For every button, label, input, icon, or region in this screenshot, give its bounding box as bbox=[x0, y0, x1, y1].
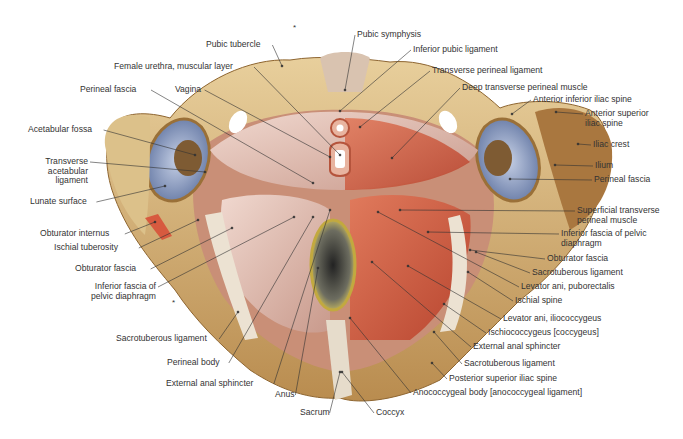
label-coccyx: Coccyx bbox=[376, 408, 404, 418]
label-perineal-body: Perineal body bbox=[167, 358, 220, 368]
label-obturator-fascia-left: Obturator fascia bbox=[75, 264, 136, 274]
leader-dot bbox=[154, 221, 156, 223]
label-female-urethra: Female urethra, muscular layer bbox=[114, 62, 233, 72]
label-inferior-pubic-ligament: Inferior pubic ligament bbox=[413, 45, 498, 55]
label-anterior-inferior-iliac-spine: Anterior inferior iliac spine bbox=[533, 95, 632, 105]
asterisk-marker: * bbox=[293, 23, 296, 32]
leader-dot bbox=[197, 219, 199, 221]
leader-dot bbox=[399, 209, 401, 211]
label-external-anal-sphincter-right: External anal sphincter bbox=[473, 342, 560, 352]
label-ischiococcygeus: Ischiococcygeus [coccygeus] bbox=[488, 328, 599, 338]
leader-dot bbox=[339, 110, 341, 112]
label-transverse-perineal-ligament: Transverse perineal ligament bbox=[432, 66, 543, 76]
label-sacrum: Sacrum bbox=[300, 408, 330, 418]
leader-dot bbox=[339, 154, 341, 156]
label-anus: Anus bbox=[275, 390, 295, 400]
leader-dot bbox=[293, 216, 295, 218]
label-ischial-spine: Ischial spine bbox=[515, 296, 562, 306]
leader-dot bbox=[475, 251, 477, 253]
label-obturator-fascia-right: Obturator fascia bbox=[547, 254, 608, 264]
leader-dot bbox=[312, 182, 314, 184]
label-vagina: Vagina bbox=[175, 85, 201, 95]
pelvic-floor-diagram: ** Pubic tubercleFemale urethra, muscula… bbox=[0, 0, 683, 439]
label-iliac-crest: Iliac crest bbox=[593, 140, 629, 150]
leader-dot bbox=[164, 185, 166, 187]
label-acetabular-fossa: Acetabular fossa bbox=[28, 125, 92, 135]
leader-dot bbox=[509, 178, 511, 180]
leader-dot bbox=[555, 111, 557, 113]
leader-dot bbox=[237, 311, 239, 313]
label-pubic-tubercle: Pubic tubercle bbox=[206, 40, 260, 50]
label-sacrotuberous-ligament-left: Sacrotuberous ligament bbox=[116, 334, 207, 344]
leader-dot bbox=[377, 211, 379, 213]
label-pubic-symphysis: Pubic symphysis bbox=[357, 30, 421, 40]
label-perineal-fascia-right: Perineal fascia bbox=[594, 175, 650, 185]
leader-dot bbox=[194, 154, 196, 156]
label-anterior-superior-iliac-spine: Anterior superioriliac spine bbox=[585, 109, 649, 128]
leader-dot bbox=[312, 216, 314, 218]
leader-dot bbox=[281, 65, 283, 67]
label-perineal-fascia-left: Perineal fascia bbox=[80, 85, 136, 95]
leader-dot bbox=[317, 267, 319, 269]
label-sacrotuberous-ligament-right-lower: Sacrotuberous ligament bbox=[464, 359, 555, 369]
leader-dot bbox=[231, 227, 233, 229]
leader-dot bbox=[371, 261, 373, 263]
leader-dot bbox=[407, 265, 409, 267]
label-sacrotuberous-ligament-right-upper: Sacrotuberous ligament bbox=[532, 268, 623, 278]
label-inferior-fascia-pelvic-diaphragm-right: Inferior fascia of pelvicdiaphragm bbox=[561, 229, 647, 248]
leader-dot bbox=[433, 331, 435, 333]
label-obturator-internus: Obturator internus bbox=[40, 229, 109, 239]
asterisk-marker: * bbox=[172, 298, 175, 307]
leader-dot bbox=[204, 171, 206, 173]
label-external-anal-sphincter-left: External anal sphincter bbox=[166, 379, 253, 389]
label-superficial-transverse-perineal-muscle: Superficial transverseperineal muscle bbox=[577, 206, 660, 225]
leader-dot bbox=[469, 249, 471, 251]
label-posterior-superior-iliac-spine: Posterior superior iliac spine bbox=[449, 374, 557, 384]
leader-dot bbox=[577, 143, 579, 145]
leader-dot bbox=[427, 231, 429, 233]
leader-dot bbox=[329, 156, 331, 158]
label-levator-ani-iliococcygeus: Levator ani, iliococcygeus bbox=[503, 314, 601, 324]
leader-dot bbox=[349, 317, 351, 319]
leader-dot bbox=[359, 126, 361, 128]
leader-dot bbox=[329, 209, 331, 211]
leader-dot bbox=[431, 362, 433, 364]
leader-dot bbox=[391, 157, 393, 159]
label-anococcygeal-body: Anococcygeal body [anococcygeal ligament… bbox=[413, 388, 582, 398]
leader-dot bbox=[511, 113, 513, 115]
label-ilium: Ilium bbox=[595, 161, 613, 171]
label-transverse-acetabular-ligament: Transverseacetabularligament bbox=[42, 157, 88, 186]
leader-dot bbox=[554, 164, 556, 166]
leader-dot bbox=[443, 303, 445, 305]
label-inferior-fascia-pelvic-diaphragm-left: Inferior fascia ofpelvic diaphragm bbox=[88, 282, 156, 301]
label-deep-transverse-perineal-muscle: Deep transverse perineal muscle bbox=[462, 83, 588, 93]
leader-dot bbox=[467, 271, 469, 273]
leader-dot bbox=[344, 89, 346, 91]
label-lunate-surface: Lunate surface bbox=[30, 197, 87, 207]
label-levator-ani-puborectalis: Levator ani, puborectalis bbox=[521, 282, 615, 292]
leader-dot bbox=[341, 371, 343, 373]
label-ischial-tuberosity: Ischial tuberosity bbox=[54, 243, 118, 253]
